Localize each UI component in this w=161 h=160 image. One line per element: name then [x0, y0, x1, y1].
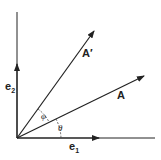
label-a: A: [117, 90, 125, 101]
vector-diagram: [0, 0, 161, 160]
label-phi: φ: [41, 112, 46, 121]
label-a-prime: A′: [82, 48, 93, 59]
vector-a: [17, 76, 144, 138]
label-e1: e1: [69, 141, 79, 154]
label-e2: e2: [5, 81, 15, 94]
e2-subscript: 2: [11, 87, 15, 94]
e1-subscript: 1: [75, 147, 79, 154]
label-theta: θ: [58, 124, 62, 133]
